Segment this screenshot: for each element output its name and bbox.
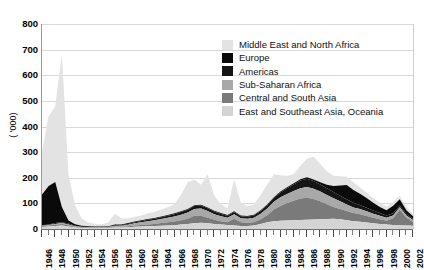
legend-swatch bbox=[222, 93, 233, 103]
legend-item: Middle East and North Africa bbox=[222, 38, 412, 51]
x-axis-tick bbox=[392, 230, 393, 235]
y-axis-tick-label: 100 bbox=[4, 198, 38, 208]
legend-label: Middle East and North Africa bbox=[239, 40, 359, 50]
y-axis-tick-label: 300 bbox=[4, 147, 38, 157]
x-axis-tick-label: 1998 bbox=[390, 249, 399, 268]
x-axis-tick-label: 1962 bbox=[151, 249, 160, 268]
x-axis-tick-label: 1960 bbox=[138, 249, 147, 268]
x-axis-tick bbox=[273, 230, 274, 235]
x-axis-tick-label: 1972 bbox=[217, 249, 226, 268]
legend-label: East and Southeast Asia, Oceania bbox=[239, 107, 383, 117]
x-axis-tick bbox=[140, 230, 141, 235]
legend-item: Americas bbox=[222, 65, 412, 78]
x-axis-tick-label: 1978 bbox=[257, 249, 266, 268]
legend-label: Americas bbox=[239, 67, 279, 77]
legend-item: East and Southeast Asia, Oceania bbox=[222, 105, 412, 118]
x-axis-tick bbox=[101, 230, 102, 235]
y-axis-tick-label: 500 bbox=[4, 96, 38, 106]
x-axis-tick-labels: 1946194819501952195419561958196019621964… bbox=[41, 236, 413, 270]
x-axis-tick-label: 1990 bbox=[337, 249, 346, 268]
x-axis-tick-label: 1996 bbox=[376, 249, 385, 268]
legend-item: Sub-Saharan Africa bbox=[222, 78, 412, 91]
x-axis-tick bbox=[167, 230, 168, 235]
x-axis-tick-label: 1952 bbox=[85, 249, 94, 268]
legend-label: Sub-Saharan Africa bbox=[239, 80, 321, 90]
x-axis-tick-label: 1948 bbox=[58, 249, 67, 268]
x-axis-tick-label: 1956 bbox=[111, 249, 120, 268]
x-axis-tick bbox=[352, 230, 353, 235]
x-axis-tick bbox=[299, 230, 300, 235]
legend-item: Central and South Asia bbox=[222, 92, 412, 105]
legend-item: Europe bbox=[222, 51, 412, 64]
x-axis-tick bbox=[405, 230, 406, 235]
legend-swatch bbox=[222, 66, 233, 76]
x-axis-tick-label: 1980 bbox=[270, 249, 279, 268]
legend-label: Central and South Asia bbox=[239, 93, 336, 103]
x-axis-tick bbox=[379, 230, 380, 235]
x-axis-tick bbox=[220, 230, 221, 235]
x-axis-tick-label: 2000 bbox=[403, 249, 412, 268]
x-axis-tick bbox=[48, 230, 49, 235]
x-axis-tick bbox=[339, 230, 340, 235]
y-axis-tick-label: 0 bbox=[4, 224, 38, 234]
stacked-area-chart: ( '000) 0100200300400500600700800 194619… bbox=[0, 0, 424, 270]
x-axis-tick-label: 1994 bbox=[363, 249, 372, 268]
y-axis-tick-label: 400 bbox=[4, 122, 38, 132]
x-axis-tick-label: 1986 bbox=[310, 249, 319, 268]
x-axis-tick bbox=[61, 230, 62, 235]
x-axis-tick bbox=[154, 230, 155, 235]
x-axis-tick-label: 1964 bbox=[164, 249, 173, 268]
chart-legend: Middle East and North AfricaEuropeAmeric… bbox=[222, 38, 412, 118]
x-axis-tick bbox=[207, 230, 208, 235]
x-axis-tick-label: 1958 bbox=[125, 249, 134, 268]
x-axis-tick bbox=[87, 230, 88, 235]
y-axis-tick-labels: 0100200300400500600700800 bbox=[0, 0, 38, 270]
x-axis-tick bbox=[246, 230, 247, 235]
x-axis-tick-label: 2002 bbox=[416, 249, 424, 268]
x-axis-tick bbox=[233, 230, 234, 235]
x-axis-tick-label: 1966 bbox=[178, 249, 187, 268]
x-axis-tick-label: 1950 bbox=[72, 249, 81, 268]
x-axis-tick bbox=[313, 230, 314, 235]
legend-swatch bbox=[222, 40, 233, 50]
x-axis-tick bbox=[114, 230, 115, 235]
legend-label: Europe bbox=[239, 53, 270, 63]
y-axis-tick-label: 200 bbox=[4, 173, 38, 183]
x-axis-tick bbox=[180, 230, 181, 235]
x-axis-tick bbox=[326, 230, 327, 235]
x-axis-tick-label: 1992 bbox=[350, 249, 359, 268]
x-axis-tick bbox=[260, 230, 261, 235]
legend-swatch bbox=[222, 106, 233, 116]
x-axis-tick bbox=[74, 230, 75, 235]
x-axis-tick bbox=[366, 230, 367, 235]
x-axis-tick-label: 1974 bbox=[231, 249, 240, 268]
legend-swatch bbox=[222, 80, 233, 90]
x-axis-tick-label: 1988 bbox=[323, 249, 332, 268]
x-axis-tick-label: 1970 bbox=[204, 249, 213, 268]
legend-swatch bbox=[222, 53, 233, 63]
x-axis-tick-label: 1976 bbox=[244, 249, 253, 268]
x-axis-tick-label: 1946 bbox=[45, 249, 54, 268]
x-axis-tick bbox=[127, 230, 128, 235]
x-axis-tick bbox=[193, 230, 194, 235]
x-axis-tick-label: 1982 bbox=[284, 249, 293, 268]
x-axis-tick-label: 1984 bbox=[297, 249, 306, 268]
y-axis-tick-label: 800 bbox=[4, 19, 38, 29]
y-axis-tick-label: 600 bbox=[4, 70, 38, 80]
y-axis-tick-label: 700 bbox=[4, 45, 38, 55]
x-axis-tick-label: 1954 bbox=[98, 249, 107, 268]
x-axis-tick bbox=[286, 230, 287, 235]
x-axis-tick-label: 1968 bbox=[191, 249, 200, 268]
